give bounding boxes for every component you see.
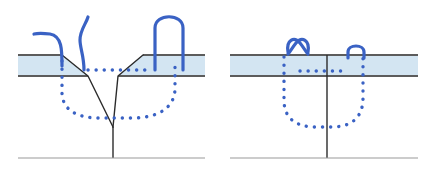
figure-canvas <box>0 0 435 179</box>
wavy-trace <box>80 17 88 70</box>
panel-left <box>18 17 205 158</box>
layer-band-fill <box>230 55 418 76</box>
panel-right <box>230 40 418 158</box>
layer-band-fill-left <box>18 55 88 76</box>
figure-container <box>0 0 435 179</box>
